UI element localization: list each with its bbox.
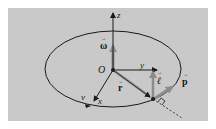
omega-label: ω — [100, 40, 107, 51]
p-arrow-mark: → — [183, 72, 188, 77]
p-label: p — [182, 76, 188, 87]
x-axis-label: x — [97, 96, 102, 106]
z-axis-label: z — [116, 10, 121, 20]
ell-label: ℓ — [157, 75, 161, 86]
ell-arrow-mark: → — [157, 70, 162, 75]
r-arrow-mark: → — [118, 79, 123, 84]
origin-label: O — [98, 64, 105, 75]
origin-point — [111, 68, 115, 72]
v-label: v — [81, 92, 85, 102]
particle-point — [151, 97, 155, 101]
angular-momentum-diagram: z ω → O y x v r → ℓ → p → — [0, 0, 216, 129]
diagram-panel — [8, 8, 208, 121]
omega-arrow-mark: → — [101, 36, 106, 41]
y-axis-label: y — [139, 60, 144, 70]
